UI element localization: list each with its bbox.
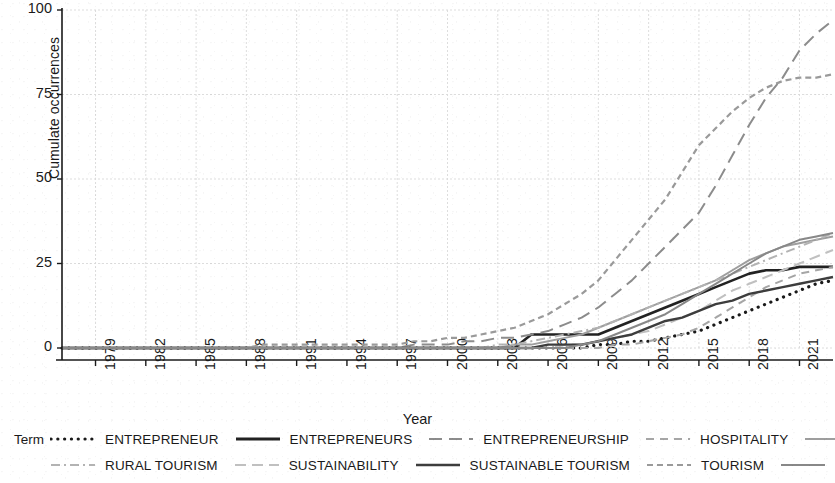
legend-item[interactable]: SUSTAINABILITY (234, 458, 415, 473)
legend-label: SUSTAINABILITY (289, 458, 399, 473)
chart-container: Cumulate occurrences 0255075100 19791982… (0, 0, 835, 483)
grid-lines (62, 10, 833, 348)
legend-item[interactable]: RURAL TOURISM (50, 458, 234, 473)
legend-line-key (428, 433, 474, 445)
legend-label: HOSPITALITY (700, 432, 788, 447)
legend-line-key (235, 433, 281, 445)
legend-label: RURAL TOURISM (105, 458, 218, 473)
legend-title: Term (14, 432, 44, 447)
legend-item[interactable]: INNOVATION (804, 432, 835, 447)
legend-label: SUSTAINABLE TOURISM (470, 458, 630, 473)
legend-line-key (645, 433, 691, 445)
legend-line-key (415, 459, 461, 471)
legend-item[interactable]: SUSTAINABLE TOURISM (415, 458, 646, 473)
legend-label: ENTREPRENEURSHIP (483, 432, 629, 447)
legend-line-key (234, 459, 280, 471)
chart-legend: TermENTREPRENEURENTREPRENEURSENTREPRENEU… (0, 426, 835, 478)
legend-line-key (646, 459, 692, 471)
legend-item[interactable]: HOSPITALITY (645, 432, 804, 447)
x-axis-label: Year (0, 411, 835, 427)
legend-label: ENTREPRENEURS (290, 432, 413, 447)
legend-label: ENTREPRENEUR (105, 432, 219, 447)
legend-row: TermRURAL TOURISMSUSTAINABILITYSUSTAINAB… (0, 452, 835, 478)
legend-line-key (780, 459, 826, 471)
legend-item[interactable]: ENTREPRENEUR (50, 432, 235, 447)
legend-row: TermENTREPRENEURENTREPRENEURSENTREPRENEU… (0, 426, 835, 452)
legend-line-key (50, 433, 96, 445)
axis-lines (56, 8, 833, 366)
legend-line-key (804, 433, 835, 445)
legend-item[interactable]: ENTREPRENEURS (235, 432, 429, 447)
legend-item[interactable]: ENTREPRENEURSHIP (428, 432, 645, 447)
legend-line-key (50, 459, 96, 471)
legend-item[interactable]: TOURISM (646, 458, 780, 473)
legend-label: TOURISM (701, 458, 764, 473)
legend-item[interactable]: TOURISM DEVELOPMENT (780, 458, 835, 473)
